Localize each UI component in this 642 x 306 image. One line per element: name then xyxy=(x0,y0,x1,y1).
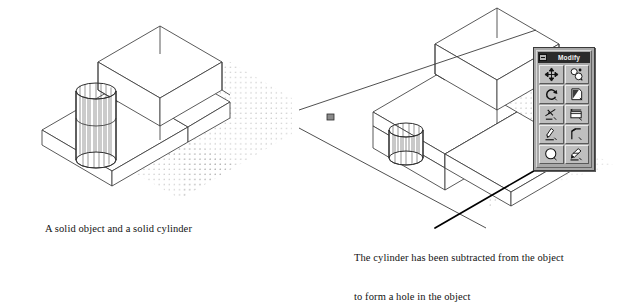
close-box-icon[interactable] xyxy=(539,54,547,61)
panel-after: Modify xyxy=(321,0,642,269)
toolbar-button-subtract[interactable] xyxy=(539,145,564,164)
drawing-area-after: Modify xyxy=(321,0,642,215)
caption-after: The cylinder has been subtracted from th… xyxy=(354,225,564,306)
drawing-area-before xyxy=(0,0,321,215)
mirror-page-icon xyxy=(569,87,584,102)
toolbar-button-mirror[interactable] xyxy=(565,85,590,104)
toolbar-button-stretch[interactable] xyxy=(565,105,590,124)
four-way-arrow-icon xyxy=(544,67,559,82)
copy-objects-icon xyxy=(569,67,584,82)
chamfer-corner-icon xyxy=(569,127,584,142)
caption-after-line-1: The cylinder has been subtracted from th… xyxy=(354,251,564,264)
erase-pencil-icon xyxy=(544,127,559,142)
panel-before: A solid object and a solid cylinder xyxy=(0,0,321,269)
stretch-box-icon xyxy=(569,107,584,122)
rotate-arrow-icon xyxy=(544,87,559,102)
boolean-subtract-icon xyxy=(544,147,559,162)
toolbar-title-bar[interactable]: Modify xyxy=(538,52,590,63)
toolbar-button-copy[interactable] xyxy=(565,65,590,84)
toolbar-button-chamfer[interactable] xyxy=(565,125,590,144)
caption-before: A solid object and a solid cylinder xyxy=(45,222,192,235)
trim-scissor-icon xyxy=(544,107,559,122)
toolbar-button-rotate[interactable] xyxy=(539,85,564,104)
isometric-solid-and-cylinder xyxy=(0,0,321,215)
toolbar-button-move[interactable] xyxy=(539,65,564,84)
modify-toolbar[interactable]: Modify xyxy=(533,47,595,171)
toolbar-button-trim[interactable] xyxy=(539,105,564,124)
toolbar-button-explode[interactable] xyxy=(565,145,590,164)
explode-brush-icon xyxy=(569,147,584,162)
toolbar-button-grid xyxy=(538,63,590,166)
toolbar-button-erase[interactable] xyxy=(539,125,564,144)
toolbar-title: Modify xyxy=(549,53,589,61)
caption-after-line-2: to form a hole in the object xyxy=(354,290,564,303)
